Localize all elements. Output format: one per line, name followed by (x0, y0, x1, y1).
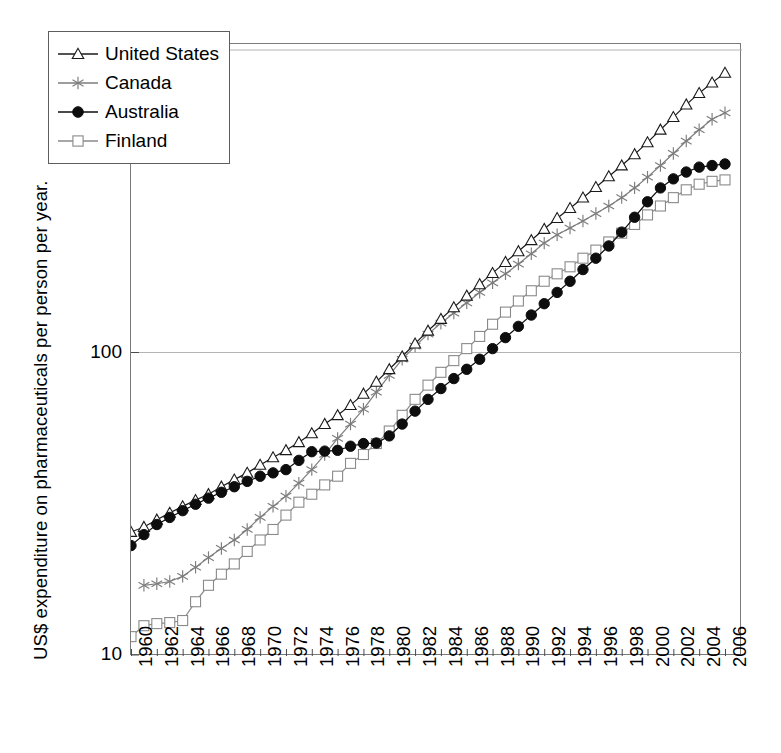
x-axis-tick-label: 1986 (473, 626, 492, 667)
legend-item-australia[interactable]: Australia (56, 97, 219, 126)
x-axis-tick-label: 2004 (705, 626, 724, 667)
x-axis-tick-label: 1976 (344, 626, 363, 667)
x-axis-tick-label: 1998 (628, 626, 647, 667)
x-axis-tick-label: 1964 (189, 626, 208, 667)
legend-item-finland[interactable]: Finland (56, 126, 219, 155)
x-axis-tick-label: 2002 (679, 626, 698, 667)
x-axis-tick-label: 1994 (576, 626, 595, 667)
x-axis-tick-label: 1990 (524, 626, 543, 667)
x-axis-tick-label: 1982 (421, 626, 440, 667)
legend-item-label: Australia (100, 102, 179, 122)
x-axis-tick-label: 1970 (266, 626, 285, 667)
open-triangle-icon (56, 44, 100, 64)
legend-item-canada[interactable]: Canada (56, 68, 219, 97)
x-axis-tick-label: 1968 (240, 626, 259, 667)
x-axis-tick-label: 1974 (318, 626, 337, 667)
x-axis-tick-label: 1966 (214, 626, 233, 667)
x-axis-tick-label: 1988 (499, 626, 518, 667)
x-axis-tick-label: 1996 (602, 626, 621, 667)
asterisk-icon (56, 73, 100, 93)
x-axis-tick-label: 2000 (654, 626, 673, 667)
x-axis-tick-label: 1984 (447, 626, 466, 667)
x-axis-tick-label: 1962 (163, 626, 182, 667)
filled-circle-icon (56, 102, 100, 122)
legend-item-label: Canada (100, 73, 172, 93)
legend-item-label: Finland (100, 131, 167, 151)
open-square-icon (56, 131, 100, 151)
x-axis-tick-label: 2006 (731, 626, 750, 667)
x-axis-tick-label: 1972 (292, 626, 311, 667)
x-axis-tick-label: 1960 (137, 626, 156, 667)
legend-item-united-states[interactable]: United States (56, 39, 219, 68)
legend-item-label: United States (100, 44, 219, 64)
x-axis-tick-label: 1978 (369, 626, 388, 667)
chart-figure: US$ expenditure on pharmaceuticals per p… (0, 0, 781, 753)
x-axis-tick-label: 1992 (550, 626, 569, 667)
x-axis-tick-label: 1980 (395, 626, 414, 667)
legend: United StatesCanadaAustraliaFinland (48, 31, 230, 164)
